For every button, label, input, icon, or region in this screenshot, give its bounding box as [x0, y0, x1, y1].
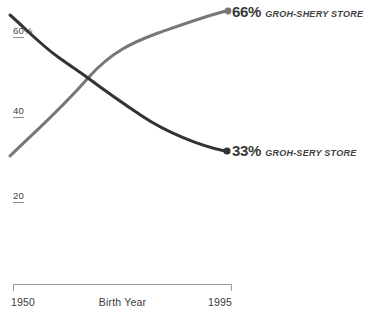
x-axis-tick-end: 1995	[208, 296, 232, 308]
line-chart: 60% 40 20 66% GROH-SHERY STORE 33% GROH-…	[0, 0, 365, 322]
y-axis-tick-60-label: 60%	[13, 25, 33, 36]
y-axis-tick-20-mark	[13, 202, 24, 203]
x-axis-bracket	[13, 284, 232, 291]
line-endpoint-dot-groh-shery-store	[225, 8, 232, 15]
y-axis-tick-40-label: 40	[13, 105, 24, 116]
series-name-groh-shery-store: GROH-SHERY STORE	[265, 9, 363, 19]
y-axis-tick-40-mark	[13, 117, 24, 118]
line-series-groh-shery-store	[10, 11, 226, 156]
line-endpoint-dot-groh-sery-store	[223, 147, 230, 154]
y-axis-tick-20: 20	[13, 190, 24, 203]
y-axis-tick-20-label: 20	[13, 190, 24, 201]
y-axis-tick-40: 40	[13, 105, 24, 118]
line-series-groh-sery-store	[10, 15, 225, 151]
series-annotation-groh-sery-store: 33% GROH-SERY STORE	[232, 142, 356, 159]
series-value-groh-sery-store: 33%	[232, 142, 261, 159]
y-axis-tick-60-mark	[13, 37, 24, 38]
series-name-groh-sery-store: GROH-SERY STORE	[265, 148, 356, 158]
series-annotation-groh-shery-store: 66% GROH-SHERY STORE	[232, 3, 363, 20]
y-axis-tick-60: 60%	[13, 25, 33, 38]
series-value-groh-shery-store: 66%	[232, 3, 261, 20]
chart-plot-area	[0, 0, 365, 322]
